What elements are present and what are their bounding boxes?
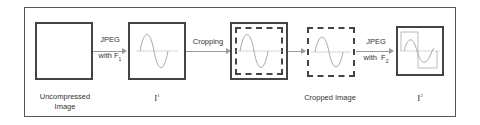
arrow-cropping <box>186 51 230 52</box>
sine-wave-icon <box>309 29 353 75</box>
i1-crop-region-box <box>230 22 288 80</box>
label-line2: Image <box>25 102 105 112</box>
label-line1: Uncompressed <box>25 92 105 102</box>
square-wave-sine-icon <box>398 28 442 74</box>
cropped-image-label: Cropped Image <box>290 93 370 103</box>
arrow-to-cropped <box>288 51 305 52</box>
superscript: 1 <box>157 93 160 98</box>
i2-label: I2 <box>405 91 435 103</box>
cropping-label: Cropping <box>186 37 230 47</box>
i2-image-box <box>396 26 444 76</box>
sine-wave-icon <box>130 24 184 78</box>
with-f-text: with F <box>99 51 119 60</box>
uncompressed-image-box <box>35 22 93 80</box>
cropped-image-box <box>307 27 355 77</box>
jpeg-label: JPEG <box>358 37 394 47</box>
with-f-text: with F <box>364 53 386 62</box>
superscript: 2 <box>420 93 423 98</box>
subscript: 1 <box>119 56 122 62</box>
jpeg-f2-label: JPEG with F2 <box>358 37 394 66</box>
with-f2-label: with F2 <box>358 53 394 66</box>
uncompressed-image-label: Uncompressed Image <box>25 92 105 112</box>
subscript: 2 <box>386 58 389 64</box>
jpeg-f1-label: JPEG with F1 <box>94 35 126 64</box>
jpeg-label: JPEG <box>94 35 126 45</box>
sine-wave-icon <box>232 24 286 78</box>
with-f1-label: with F1 <box>94 51 126 64</box>
i1-label: I1 <box>142 91 172 103</box>
i1-image-box <box>128 22 186 80</box>
